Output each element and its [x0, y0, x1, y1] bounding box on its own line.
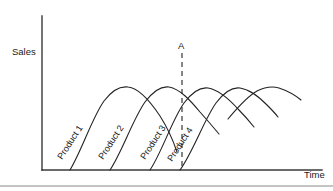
annotation-label-a: A: [178, 40, 185, 51]
chart-canvas: Sales Time A Product 1 Product 2 Product…: [0, 0, 333, 191]
product-life-cycle-chart: Sales Time A Product 1 Product 2 Product…: [0, 0, 333, 191]
x-axis-label: Time: [304, 169, 325, 180]
curve-label-product-3: Product 3: [138, 123, 167, 161]
curve-label-product-1: Product 1: [55, 123, 84, 161]
y-axis-label: Sales: [12, 46, 36, 57]
curve-label-product-2: Product 2: [96, 123, 125, 161]
